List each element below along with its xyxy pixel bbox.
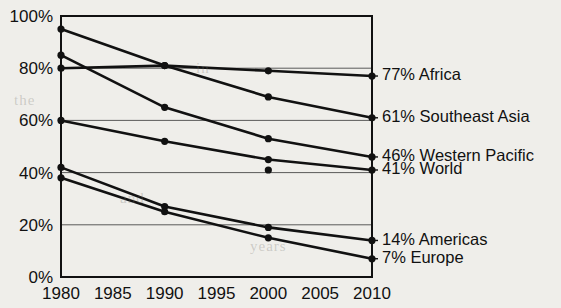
gridlines [61, 68, 372, 225]
series-line-americas [61, 167, 372, 240]
end-label-africa: 77% Africa [382, 65, 462, 83]
line-chart: 77% Africa61% Southeast Asia46% Western … [0, 0, 561, 308]
series-line-africa [61, 66, 372, 76]
marker-europe-1990 [161, 208, 168, 215]
y-tick-20: 20% [19, 216, 53, 235]
x-tick-2010: 2010 [353, 284, 391, 303]
end-label-world: 41% World [382, 159, 462, 177]
ghost-text-3: and [120, 190, 145, 207]
marker-western-pacific-1980 [57, 52, 64, 59]
x-axis-tick-labels: 1980198519901995200020052010 [42, 284, 391, 303]
ghost-text-4: years [250, 238, 287, 255]
end-label-americas: 14% Americas [382, 230, 487, 248]
marker-western-pacific-2000 [265, 135, 272, 142]
y-tick-80: 80% [19, 59, 53, 78]
series-layer [61, 29, 372, 259]
marker-americas-2000 [265, 224, 272, 231]
y-axis-tick-labels: 0%20%40%60%80%100% [10, 7, 53, 287]
marker-europe-1980 [57, 174, 64, 181]
marker-layer [57, 25, 375, 262]
y-tick-60: 60% [19, 111, 53, 130]
x-tick-2005: 2005 [301, 284, 339, 303]
x-tick-2000: 2000 [249, 284, 287, 303]
marker-africa-2000 [265, 67, 272, 74]
series-end-labels: 77% Africa61% Southeast Asia46% Western … [382, 65, 534, 266]
end-label-europe: 7% Europe [382, 248, 464, 266]
series-line-world [61, 120, 372, 170]
x-tick-1985: 1985 [94, 284, 132, 303]
stray-points [265, 166, 272, 173]
chart-svg: 77% Africa61% Southeast Asia46% Western … [0, 0, 561, 308]
marker-americas-1980 [57, 164, 64, 171]
marker-world-1990 [161, 138, 168, 145]
marker-southeast-asia-2000 [265, 93, 272, 100]
x-tick-1990: 1990 [146, 284, 184, 303]
x-tick-1995: 1995 [198, 284, 236, 303]
ghost-text-1: the [14, 92, 35, 109]
marker-world-1980 [57, 117, 64, 124]
marker-western-pacific-1990 [161, 104, 168, 111]
marker-southeast-asia-1980 [57, 25, 64, 32]
y-tick-100: 100% [10, 7, 53, 26]
marker-africa-1980 [57, 65, 64, 72]
plot-frame [61, 16, 372, 277]
marker-world-2000 [265, 156, 272, 163]
x-tick-1980: 1980 [42, 284, 80, 303]
end-label-southeast-asia: 61% Southeast Asia [382, 107, 531, 125]
series-line-western-pacific [61, 55, 372, 157]
ghost-text-2: in [196, 60, 210, 77]
stray-point-0 [265, 166, 272, 173]
y-tick-40: 40% [19, 164, 53, 183]
marker-southeast-asia-1990 [161, 62, 168, 69]
